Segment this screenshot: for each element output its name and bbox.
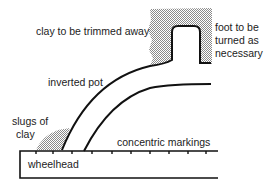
label-foot-1: foot to be bbox=[215, 21, 259, 33]
label-wheelhead: wheelhead bbox=[28, 158, 79, 170]
label-inverted-pot: inverted pot bbox=[48, 76, 103, 88]
label-foot-2: turned as bbox=[215, 34, 259, 46]
label-clay-trimmed: clay to be trimmed away bbox=[36, 25, 149, 37]
label-foot-3: necessary bbox=[215, 47, 263, 59]
slugs-of-clay-region bbox=[36, 128, 70, 150]
trim-clay-region bbox=[148, 8, 212, 66]
label-slugs-1: slugs of bbox=[12, 115, 48, 127]
label-slugs-2: clay bbox=[16, 128, 35, 140]
label-concentric: concentric markings bbox=[117, 136, 210, 148]
pot-outer-wall bbox=[62, 26, 211, 150]
